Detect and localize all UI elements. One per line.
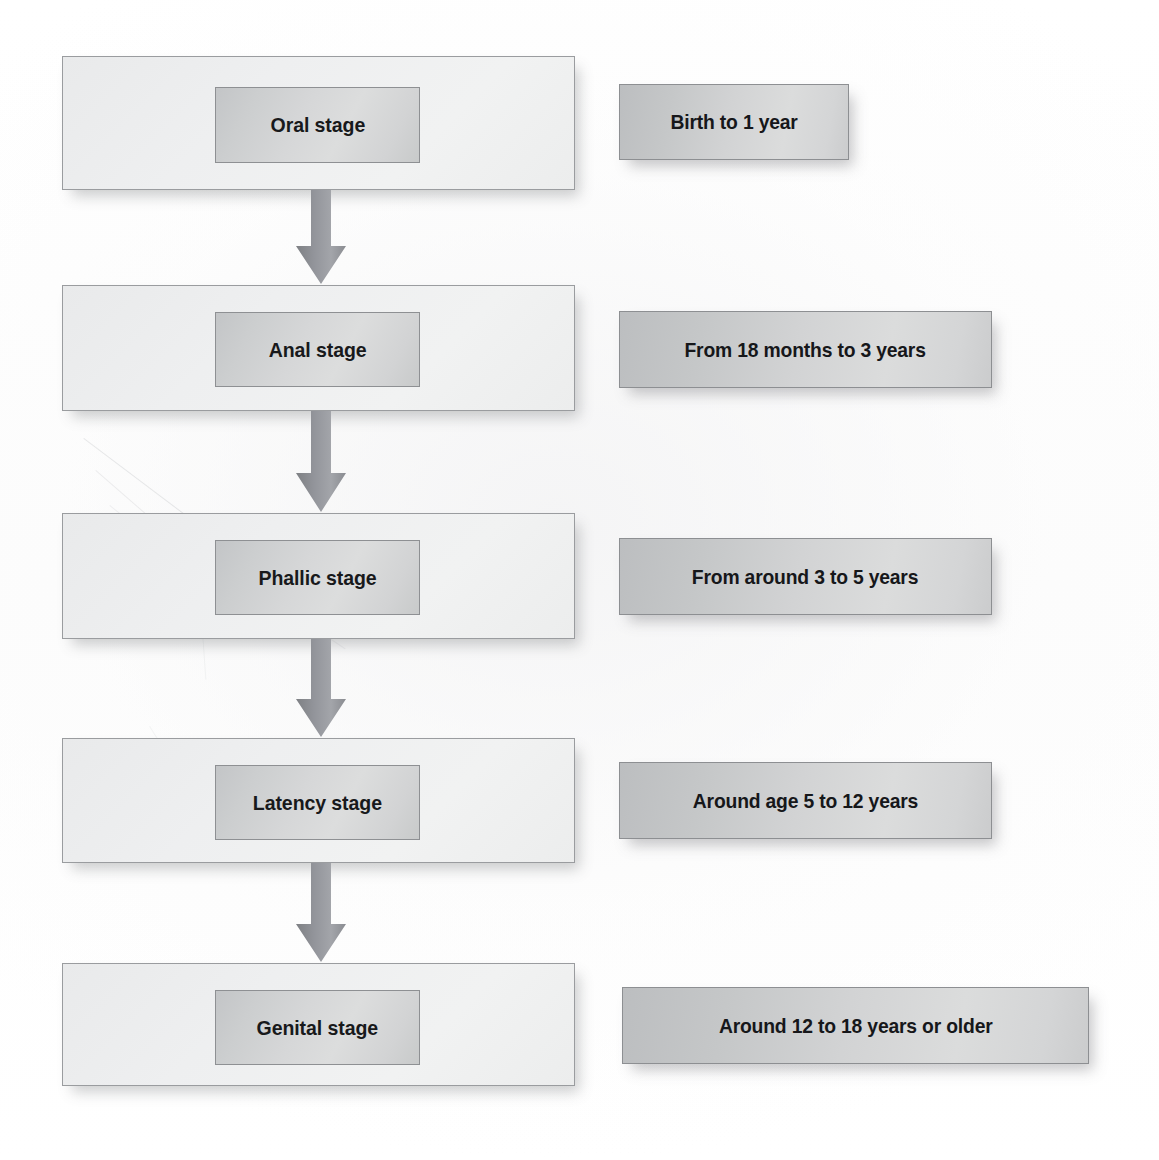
stage-panel-phallic[interactable]: Phallic stage — [62, 513, 575, 639]
age-label-oral[interactable]: Birth to 1 year — [619, 84, 849, 160]
age-label-text: Around 12 to 18 years or older — [719, 1014, 993, 1038]
stage-chip-oral[interactable]: Oral stage — [215, 87, 420, 163]
stage-chip-anal[interactable]: Anal stage — [215, 312, 420, 387]
age-label-anal[interactable]: From 18 months to 3 years — [619, 311, 992, 388]
stage-label: Phallic stage — [258, 566, 376, 590]
age-label-text: From around 3 to 5 years — [692, 565, 918, 589]
flow-arrow-latency-to-genital — [294, 863, 348, 964]
stage-label: Anal stage — [269, 338, 367, 362]
age-label-text: Birth to 1 year — [670, 110, 797, 134]
stage-panel-genital[interactable]: Genital stage — [62, 963, 575, 1086]
age-label-text: From 18 months to 3 years — [685, 338, 926, 362]
age-label-latency[interactable]: Around age 5 to 12 years — [619, 762, 992, 839]
stage-chip-latency[interactable]: Latency stage — [215, 765, 420, 840]
age-label-text: Around age 5 to 12 years — [693, 789, 918, 813]
stage-chip-genital[interactable]: Genital stage — [215, 990, 420, 1065]
age-label-genital[interactable]: Around 12 to 18 years or older — [622, 987, 1089, 1064]
stage-label: Genital stage — [257, 1016, 378, 1040]
stage-panel-oral[interactable]: Oral stage — [62, 56, 575, 190]
age-label-phallic[interactable]: From around 3 to 5 years — [619, 538, 992, 615]
stage-label: Latency stage — [253, 791, 382, 815]
flow-arrow-anal-to-phallic — [294, 411, 348, 514]
stage-label: Oral stage — [270, 113, 365, 137]
flow-arrow-phallic-to-latency — [294, 639, 348, 739]
flow-arrow-oral-to-anal — [294, 190, 348, 286]
stage-chip-phallic[interactable]: Phallic stage — [215, 540, 420, 615]
stage-panel-anal[interactable]: Anal stage — [62, 285, 575, 411]
stage-panel-latency[interactable]: Latency stage — [62, 738, 575, 863]
psychosexual-stages-flowchart: Oral stage Birth to 1 year Anal stage Fr… — [0, 0, 1159, 1160]
